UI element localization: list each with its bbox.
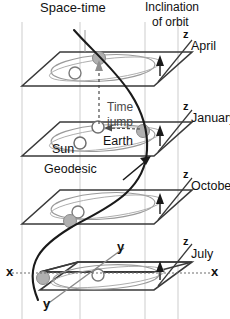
earth-marker-july — [37, 272, 50, 285]
x-axis-label-left: x — [6, 265, 13, 278]
geodesic-pointer — [123, 156, 151, 180]
time-jump-label-line1: Time — [107, 101, 133, 113]
spacetime-label: Space-time — [40, 1, 106, 14]
sun-marker-april — [69, 67, 81, 79]
earth-marker-january — [92, 121, 104, 133]
inclination-arrow-head-january — [156, 125, 164, 136]
earth-label: Earth — [103, 135, 133, 148]
z-axis-october — [158, 178, 192, 220]
inclination-label-line2: of orbit — [152, 16, 189, 28]
inclination-label-line1: Inclination — [145, 1, 199, 13]
month-label-july: July — [191, 248, 213, 261]
x-axis-label-right: x — [211, 265, 218, 278]
spacetime-diagram: Space-time Inclination of orbit z z z z … — [0, 0, 230, 319]
inclination-arrow-head-october — [156, 193, 164, 204]
z-axis-label-october: z — [183, 169, 189, 180]
sun-marker-january — [74, 137, 86, 149]
month-label-april: April — [191, 40, 216, 53]
plane-october — [22, 189, 192, 227]
plane-april — [22, 51, 192, 86]
orbit-ellipse-july-inclined — [50, 262, 165, 292]
y-axis-label-lower: y — [43, 297, 50, 310]
time-jump-label-line2: jump — [107, 116, 133, 128]
month-label-october: October — [191, 180, 230, 193]
z-axis-label-april: z — [183, 29, 189, 40]
month-label-january: January — [191, 112, 230, 125]
z-axis-january — [158, 110, 192, 152]
y-axis-label-upper: y — [117, 240, 124, 253]
z-axis-label-january: z — [183, 101, 189, 112]
plane-july — [37, 261, 193, 292]
time-jump-vertical — [95, 60, 103, 124]
sun-label: Sun — [52, 143, 74, 156]
z-axis-label-july: z — [183, 236, 189, 247]
geodesic-label: Geodesic — [44, 163, 97, 176]
